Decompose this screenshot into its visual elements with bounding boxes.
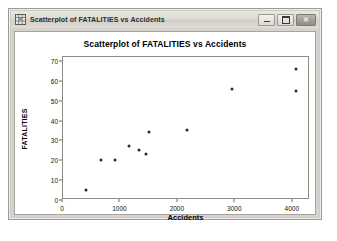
minimize-button[interactable] xyxy=(258,14,275,26)
x-tick-label: 1000 xyxy=(112,205,126,212)
close-button[interactable]: ✕ xyxy=(296,14,316,26)
data-point xyxy=(294,67,297,70)
x-tick-label: 4000 xyxy=(285,205,299,212)
x-tick-mark xyxy=(62,199,63,202)
data-point xyxy=(148,131,151,134)
y-tick-label: 30 xyxy=(51,137,58,144)
graph-window-icon xyxy=(15,14,26,25)
x-tick-mark xyxy=(176,199,177,202)
x-axis-label: Accidents xyxy=(62,213,309,222)
y-tick-label: 40 xyxy=(51,117,58,124)
y-tick-label: 70 xyxy=(51,57,58,64)
data-point xyxy=(128,145,131,148)
data-point xyxy=(114,159,117,162)
maximize-icon xyxy=(282,16,290,24)
chart-client-area: Scatterplot of FATALITIES vs Accidents F… xyxy=(14,31,316,215)
x-tick-mark xyxy=(234,199,235,202)
y-tick-label: 0 xyxy=(54,197,58,204)
data-point xyxy=(84,189,87,192)
y-axis-label: FATALITIES xyxy=(21,94,28,164)
plot-area xyxy=(62,56,309,199)
x-axis: Accidents 01000200030004000 xyxy=(62,199,309,225)
x-tick-mark xyxy=(119,199,120,202)
scatterplot: Scatterplot of FATALITIES vs Accidents F… xyxy=(15,32,315,214)
y-tick-label: 50 xyxy=(51,97,58,104)
y-tick-label: 10 xyxy=(51,177,58,184)
data-point xyxy=(145,153,148,156)
y-axis: FATALITIES 010203040506070 xyxy=(15,56,62,201)
x-tick-mark xyxy=(291,199,292,202)
chart-title: Scatterplot of FATALITIES vs Accidents xyxy=(15,39,315,49)
y-tick-label: 60 xyxy=(51,77,58,84)
data-point xyxy=(294,89,297,92)
maximize-button[interactable] xyxy=(277,14,294,26)
y-tick-label: 20 xyxy=(51,157,58,164)
minimize-icon xyxy=(264,21,270,22)
data-point xyxy=(137,149,140,152)
x-tick-label: 2000 xyxy=(170,205,184,212)
window-titlebar[interactable]: Scatterplot of FATALITIES vs Accidents ✕ xyxy=(11,11,319,28)
data-point xyxy=(231,87,234,90)
window-controls: ✕ xyxy=(258,14,316,26)
data-point xyxy=(99,159,102,162)
window-title: Scatterplot of FATALITIES vs Accidents xyxy=(30,16,258,23)
close-icon: ✕ xyxy=(303,17,309,23)
x-tick-label: 3000 xyxy=(227,205,241,212)
data-point xyxy=(185,129,188,132)
x-tick-label: 0 xyxy=(60,205,64,212)
chart-window: Scatterplot of FATALITIES vs Accidents ✕… xyxy=(8,8,322,220)
